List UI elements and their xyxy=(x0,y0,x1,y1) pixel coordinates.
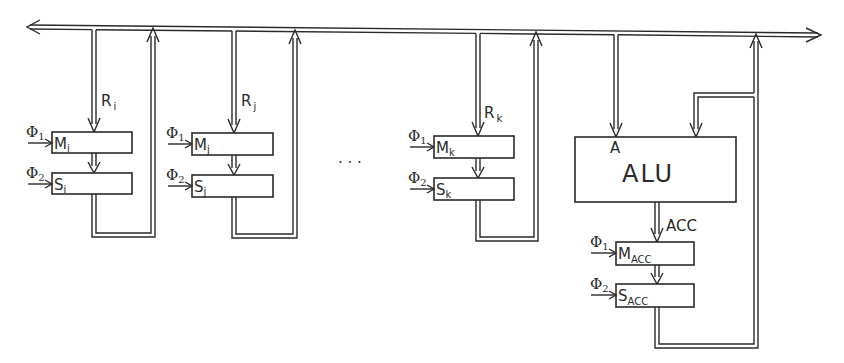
clock-phi1-label: Φ1 xyxy=(408,127,427,146)
alu-input-a-label: A xyxy=(610,139,621,157)
down-arrow-icon xyxy=(88,118,100,132)
down-arrow-icon xyxy=(690,123,702,137)
alu-module xyxy=(575,34,762,348)
down-arrow-icon xyxy=(651,273,663,284)
acc-output-label: ACC xyxy=(666,217,697,235)
down-arrow-icon xyxy=(472,167,484,178)
clock-phi1-label: Φ1 xyxy=(166,124,185,143)
alu-label: ALU xyxy=(622,160,674,188)
register-module-j xyxy=(168,30,301,238)
down-arrow-icon xyxy=(228,164,240,175)
bus-right-arrow-icon xyxy=(806,28,821,42)
clock-phi2-label: Φ2 xyxy=(166,166,185,185)
register-module-k xyxy=(410,32,542,241)
clock-phi2-label: Φ2 xyxy=(590,275,609,294)
bus-architecture-diagram: Ri Mi Si Φ1 Φ2 Rj Mj Sj Φ1 Φ2 · · · xyxy=(0,0,844,363)
bus-left-arrow-icon xyxy=(27,20,40,34)
input-label-ri: Ri xyxy=(101,92,116,112)
input-label-rk: Rk xyxy=(484,104,502,124)
clock-phi2-label: Φ2 xyxy=(408,169,427,188)
ellipsis-more-modules: · · · xyxy=(338,154,362,172)
down-arrow-icon xyxy=(472,122,484,136)
clock-phi1-label: Φ1 xyxy=(590,233,609,252)
clock-phi1-label: Φ1 xyxy=(26,123,45,142)
down-arrow-icon xyxy=(228,119,240,133)
down-arrow-icon xyxy=(88,162,100,173)
down-arrow-icon xyxy=(610,123,622,137)
input-label-rj: Rj xyxy=(241,92,256,112)
down-arrow-icon xyxy=(651,228,663,242)
system-bus xyxy=(27,20,821,42)
register-module-i xyxy=(28,28,159,237)
clock-phi2-label: Φ2 xyxy=(26,164,45,183)
